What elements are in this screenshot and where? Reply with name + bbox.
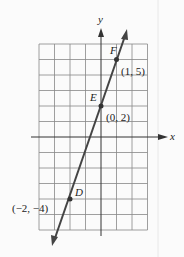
line-arrow-up-icon [121, 29, 128, 40]
coordinate-graph: x y F (1, 5) E (0, 2) D (−2, −4) [0, 0, 184, 257]
point-d-name: D [74, 186, 83, 198]
point-f-coords: (1, 5) [121, 65, 145, 78]
line-arrow-down-icon [51, 235, 58, 246]
point-e-coords: (0, 2) [106, 111, 130, 124]
point-f: F (1, 5) [109, 44, 145, 78]
x-axis-arrow-icon [158, 134, 168, 140]
x-axis-label: x [169, 130, 175, 142]
y-axis-label: y [97, 13, 103, 25]
point-d-coords: (−2, −4) [12, 202, 49, 215]
point-e-name: E [89, 91, 97, 103]
y-axis-arrow-icon [98, 28, 104, 37]
point-f-name: F [109, 44, 117, 56]
